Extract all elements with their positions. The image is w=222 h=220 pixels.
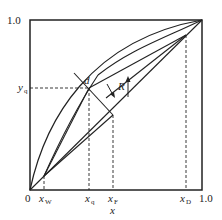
tick-xf: x F xyxy=(107,192,118,206)
diagonal-line xyxy=(30,20,202,190)
tick-xq: x q xyxy=(84,192,95,206)
arrow-down-head-icon xyxy=(110,92,115,98)
stripping-line xyxy=(44,115,113,176)
tick-yq: y q xyxy=(17,81,28,95)
svg-text:D: D xyxy=(186,198,191,206)
svg-text:q: q xyxy=(91,198,95,206)
point-d-label: d xyxy=(84,74,90,86)
y-top-label: 1.0 xyxy=(7,14,21,26)
svg-text:q: q xyxy=(24,87,28,95)
tick-xw: x W xyxy=(38,192,52,206)
svg-text:x: x xyxy=(107,192,113,204)
origin-label: 0 xyxy=(25,192,31,204)
q-line xyxy=(74,73,113,115)
x-right-label: 1.0 xyxy=(199,192,213,204)
mccabe-thiele-diagram: 1.0 1.0 0 x d R x W x q x F x D y q xyxy=(0,0,222,220)
svg-text:x: x xyxy=(38,192,44,204)
svg-text:F: F xyxy=(114,198,118,206)
svg-text:y: y xyxy=(17,81,23,93)
svg-text:x: x xyxy=(179,192,185,204)
tick-xd: x D xyxy=(179,192,191,206)
rectifying-line-min xyxy=(89,35,186,88)
reflux-label: R xyxy=(117,80,125,92)
svg-text:W: W xyxy=(45,198,52,206)
svg-text:x: x xyxy=(84,192,90,204)
